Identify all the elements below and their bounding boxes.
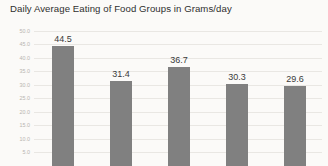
y-axis-tick-label: 25.0 [4,95,30,101]
y-axis-tick-label: 15.0 [4,122,30,128]
bar [284,86,306,166]
y-axis-tick-label: 10.0 [4,136,30,142]
bar [168,67,190,166]
bar-value-label: 44.5 [43,34,83,45]
y-axis: 50.045.040.035.030.025.020.015.010.05.0 [0,31,30,166]
bar-value-label: 36.7 [159,55,199,66]
bar-group: 44.5 [52,31,74,166]
y-axis-tick-label: 35.0 [4,68,30,74]
bar [52,46,74,166]
y-axis-tick-label: 30.0 [4,82,30,88]
bar [226,84,248,166]
bar-group: 29.6 [284,31,306,166]
plot-area: 44.531.436.730.329.6 [34,31,322,166]
bar-chart-figure: Daily Average Eating of Food Groups in G… [0,0,328,166]
bar-value-label: 29.6 [275,74,315,85]
bar-group: 36.7 [168,31,190,166]
bar [110,81,132,166]
bar-value-label: 30.3 [217,72,257,83]
y-axis-tick-label: 50.0 [4,28,30,34]
chart-title: Daily Average Eating of Food Groups in G… [10,2,232,15]
bar-group: 30.3 [226,31,248,166]
y-axis-tick-label: 40.0 [4,55,30,61]
bar-group: 31.4 [110,31,132,166]
bar-value-label: 31.4 [101,69,141,80]
y-axis-tick-label: 5.0 [4,149,30,155]
y-axis-tick-label: 20.0 [4,109,30,115]
y-axis-tick-label: 45.0 [4,41,30,47]
